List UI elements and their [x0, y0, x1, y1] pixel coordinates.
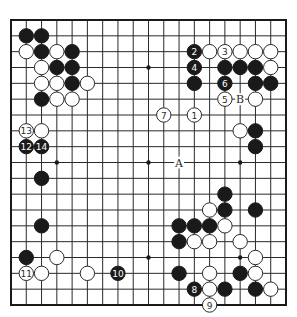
white-stone-move-5: 5	[218, 92, 232, 106]
black-stone	[65, 44, 79, 58]
stone-disc	[233, 266, 247, 280]
white-stone	[202, 203, 216, 217]
move-number: 9	[207, 301, 213, 311]
black-stone	[34, 171, 48, 185]
stone-disc	[65, 44, 79, 58]
stone-disc	[248, 250, 262, 264]
black-stone-move-8: 8	[187, 282, 201, 296]
stone-disc	[202, 234, 216, 248]
stone-disc	[248, 266, 262, 280]
stone-disc	[34, 29, 48, 43]
stone-disc	[80, 76, 94, 90]
white-stone	[264, 282, 278, 296]
stone-disc	[248, 203, 262, 217]
black-stone	[172, 219, 186, 233]
black-stone-move-6: 6	[218, 76, 232, 90]
white-stone-move-13: 13	[19, 124, 33, 138]
move-number: 6	[222, 79, 228, 89]
stone-disc	[34, 92, 48, 106]
black-stone	[248, 139, 262, 153]
stone-disc	[202, 44, 216, 58]
black-stone-move-4: 4	[187, 60, 201, 74]
stone-disc	[19, 250, 33, 264]
stone-disc	[248, 92, 262, 106]
stone-disc	[50, 76, 64, 90]
black-stone	[248, 76, 262, 90]
stone-disc	[233, 124, 247, 138]
stone-disc	[264, 44, 278, 58]
white-stone	[34, 266, 48, 280]
white-stone	[264, 60, 278, 74]
stone-disc	[19, 44, 33, 58]
white-stone	[248, 266, 262, 280]
white-stone	[202, 234, 216, 248]
white-stone	[233, 44, 247, 58]
black-stone	[34, 92, 48, 106]
black-stone	[19, 29, 33, 43]
move-number: 1	[191, 111, 197, 121]
star-point	[146, 255, 150, 259]
stone-disc	[202, 219, 216, 233]
stone-disc	[218, 187, 232, 201]
stone-disc	[248, 76, 262, 90]
stone-disc	[248, 282, 262, 296]
white-stone	[34, 76, 48, 90]
move-number: 11	[21, 269, 32, 279]
stone-disc	[187, 76, 201, 90]
move-number: 4	[191, 63, 197, 73]
black-stone	[187, 219, 201, 233]
white-stone	[19, 44, 33, 58]
stone-disc	[233, 60, 247, 74]
stone-disc	[187, 234, 201, 248]
black-stone	[172, 266, 186, 280]
stone-disc	[34, 219, 48, 233]
stone-disc	[202, 266, 216, 280]
white-stone	[218, 219, 232, 233]
white-stone-move-1: 1	[187, 108, 201, 122]
white-stone	[248, 44, 262, 58]
white-stone-move-11: 11	[19, 266, 33, 280]
move-number: 5	[222, 95, 228, 105]
black-stone-move-2: 2	[187, 44, 201, 58]
black-stone	[187, 76, 201, 90]
white-stone	[50, 92, 64, 106]
black-stone	[202, 219, 216, 233]
label-text: B	[236, 93, 244, 106]
stone-disc	[50, 250, 64, 264]
white-stone	[187, 234, 201, 248]
black-stone	[218, 60, 232, 74]
stone-disc	[248, 60, 262, 74]
stone-disc	[50, 60, 64, 74]
black-stone	[248, 203, 262, 217]
black-stone	[218, 203, 232, 217]
stone-disc	[34, 266, 48, 280]
label-text: A	[174, 157, 184, 170]
star-point	[55, 160, 59, 164]
black-stone	[34, 44, 48, 58]
white-stone	[50, 44, 64, 58]
stone-disc	[264, 282, 278, 296]
point-label-A: A	[174, 157, 184, 170]
stone-disc	[264, 76, 278, 90]
stone-disc	[65, 76, 79, 90]
move-number: 12	[21, 142, 32, 152]
move-number: 14	[36, 142, 48, 152]
star-point	[146, 65, 150, 69]
white-stone	[233, 124, 247, 138]
stone-disc	[172, 219, 186, 233]
stone-disc	[233, 44, 247, 58]
white-stone	[50, 76, 64, 90]
black-stone	[248, 60, 262, 74]
go-board: AB 1312141110234657189	[0, 0, 297, 317]
stone-disc	[50, 44, 64, 58]
white-stone	[34, 124, 48, 138]
stone-disc	[65, 60, 79, 74]
black-stone	[233, 60, 247, 74]
star-point	[238, 160, 242, 164]
stone-disc	[248, 139, 262, 153]
white-stone	[202, 266, 216, 280]
white-stone	[202, 282, 216, 296]
stone-disc	[187, 219, 201, 233]
black-stone	[218, 282, 232, 296]
black-stone-move-14: 14	[34, 139, 48, 153]
